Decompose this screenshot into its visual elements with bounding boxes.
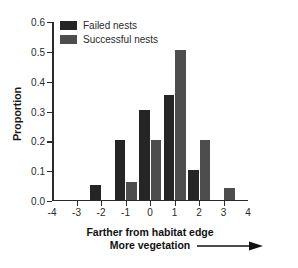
chart-figure: Proportion 0.00.10.20.30.40.50.6 -4-3-2-… [0, 0, 298, 268]
x-tick [175, 201, 176, 206]
y-tick-label: 0.0 [31, 196, 45, 207]
x-tick-label: 4 [245, 207, 251, 218]
bar [151, 140, 162, 200]
y-tick [47, 171, 52, 172]
y-tick-label: 0.5 [31, 46, 45, 57]
x-tick [77, 201, 78, 206]
x-tick-label: -4 [48, 207, 57, 218]
bar [90, 185, 101, 200]
legend-item: Failed nests [60, 19, 158, 31]
legend-label: Successful nests [83, 34, 158, 45]
y-tick-label: 0.4 [31, 76, 45, 87]
x-tick-label: 2 [196, 207, 202, 218]
y-tick [47, 141, 52, 142]
direction-arrow-icon [197, 240, 263, 252]
x-tick-label: -2 [97, 207, 106, 218]
x-tick-label: 0 [147, 207, 153, 218]
legend-label: Failed nests [83, 20, 137, 31]
x-tick [199, 201, 200, 206]
y-tick [47, 82, 52, 83]
x-tick [101, 201, 102, 206]
bar [200, 140, 211, 200]
y-tick-label: 0.6 [31, 17, 45, 28]
y-axis-label: Proportion [11, 64, 23, 164]
bar [164, 95, 175, 199]
x-axis-caption-line1: Farther from habitat edge [86, 226, 213, 238]
x-tick-label: -1 [121, 207, 130, 218]
x-tick-label: -3 [72, 207, 81, 218]
bar [175, 50, 186, 199]
bar [139, 110, 150, 200]
x-tick [126, 201, 127, 206]
plot-area: 0.00.10.20.30.40.50.6 -4-3-2-101234 [52, 22, 248, 201]
legend-swatch [60, 35, 77, 44]
y-tick-label: 0.1 [31, 166, 45, 177]
x-tick [224, 201, 225, 206]
y-tick [47, 22, 52, 23]
x-tick [150, 201, 151, 206]
bar [224, 188, 235, 200]
legend-item: Successful nests [60, 33, 158, 45]
x-tick-label: 3 [221, 207, 227, 218]
y-tick-label: 0.3 [31, 106, 45, 117]
x-tick-label: 1 [172, 207, 178, 218]
y-tick [47, 52, 52, 53]
y-tick-label: 0.2 [31, 136, 45, 147]
bar [188, 170, 199, 200]
y-tick [47, 112, 52, 113]
y-tick [47, 201, 52, 202]
y-axis-line [52, 22, 54, 201]
chart-legend: Failed nestsSuccessful nests [60, 19, 158, 47]
bar [126, 182, 137, 200]
legend-swatch [60, 21, 77, 30]
bar [115, 140, 126, 200]
